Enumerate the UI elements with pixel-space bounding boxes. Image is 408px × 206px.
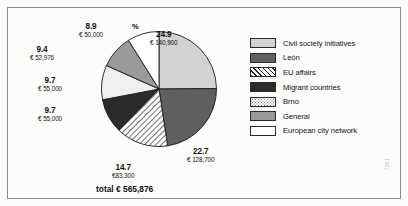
legend-swatch-icon — [250, 82, 276, 92]
legend-item-migrant-countries: Migrant countries — [250, 80, 400, 95]
legend-label: León — [283, 53, 300, 62]
slice-label-general: 9.4 € 52,976 — [30, 46, 54, 61]
slice-label-migrant-countries: 9.7 € 55,000 — [38, 107, 62, 122]
slice-amount: € 52,976 — [30, 55, 54, 62]
chart-legend: Civil society initiatives León EU affair… — [250, 36, 400, 138]
legend-label: Brno — [283, 97, 299, 106]
slice-label-european-city-network: 8.9 € 50,000 — [79, 23, 103, 38]
chart-frame: % 24.9 € 14 — [7, 7, 401, 199]
legend-swatch-icon — [250, 97, 276, 107]
legend-swatch-icon — [250, 111, 276, 121]
figure-container: % 24.9 € 14 — [0, 0, 408, 206]
slice-amount: € 55,000 — [38, 116, 62, 123]
legend-label: Migrant countries — [283, 83, 340, 92]
slice-label-eu-affairs: 14.7 €83,300 — [112, 164, 134, 179]
legend-item-european-city-network: European city network — [250, 124, 400, 139]
slice-amount: € 50,000 — [79, 32, 103, 39]
legend-item-brno: Brno — [250, 94, 400, 109]
pie-slice-le-n — [159, 89, 217, 146]
legend-label: EU affairs — [283, 68, 316, 77]
watermark-text: 7861 — [384, 158, 390, 170]
slice-amount: € 55,000 — [38, 86, 62, 93]
slice-label-civil-society: 24.9 € 140,900 — [150, 31, 178, 46]
legend-item-general: General — [250, 109, 400, 124]
legend-label: Civil society initiatives — [283, 39, 355, 48]
legend-label: European city network — [283, 126, 357, 135]
slice-amount: €83,300 — [112, 173, 134, 180]
total-label: total € 565,876 — [96, 184, 153, 194]
legend-swatch-icon — [250, 38, 276, 48]
legend-item-leon: León — [250, 51, 400, 66]
pie-chart — [100, 30, 218, 148]
legend-label: General — [283, 112, 310, 121]
legend-item-eu-affairs: EU affairs — [250, 65, 400, 80]
legend-item-civil-society-initiatives: Civil society initiatives — [250, 36, 400, 51]
slice-amount: € 140,900 — [150, 40, 178, 47]
legend-swatch-icon — [250, 126, 276, 136]
legend-swatch-icon — [250, 67, 276, 77]
pie-svg — [100, 30, 218, 148]
slice-label-brno: 9.7 € 55,000 — [38, 77, 62, 92]
slice-label-leon: 22.7 € 128,700 — [187, 148, 215, 163]
pie-slice-group — [102, 32, 217, 147]
legend-swatch-icon — [250, 53, 276, 63]
slice-amount: € 128,700 — [187, 157, 215, 164]
